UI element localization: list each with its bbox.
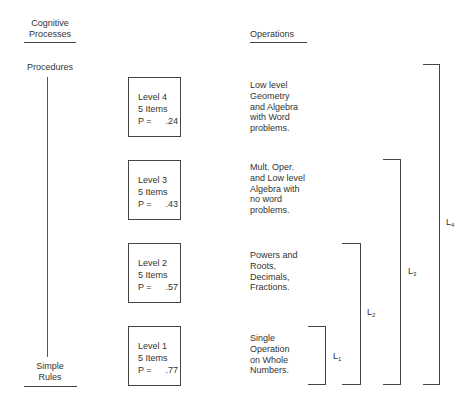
item-count: 5 Items: [138, 269, 178, 281]
operation-line: Low level: [250, 80, 298, 91]
header-underline: [24, 42, 76, 43]
operation-line: Geometry: [250, 91, 298, 102]
cognitive-axis-line: [47, 77, 48, 357]
operation-line: and Low level: [250, 173, 305, 184]
operation-line: Decimals,: [250, 272, 298, 283]
level-name: Level 3: [138, 174, 178, 186]
level-name: Level 2: [138, 257, 178, 269]
level-1-operations: Single Operation on Whole Numbers.: [250, 333, 290, 376]
operation-line: Roots,: [250, 261, 298, 272]
simple-rules-label: Simple Rules: [14, 361, 86, 383]
level-2-operations: Powers and Roots, Decimals, Fractions.: [250, 250, 298, 293]
operation-line: problems.: [250, 205, 305, 216]
operation-line: no word: [250, 194, 305, 205]
bracket-l1: [308, 326, 326, 385]
operation-line: Operation: [250, 344, 290, 355]
bracket-l4-label: L4: [446, 217, 454, 228]
operation-line: on Whole: [250, 355, 290, 366]
header-line-2: Processes: [14, 29, 86, 40]
p-label: P =: [138, 281, 152, 293]
operation-line: Fractions.: [250, 282, 298, 293]
level-name: Level 4: [138, 91, 178, 103]
bottom-label-line-1: Simple: [14, 361, 86, 372]
p-value: .24: [166, 115, 179, 127]
level-2-box: Level 2 5 Items P =.57: [128, 243, 181, 303]
level-1-box: Level 1 5 Items P =.77: [128, 326, 181, 386]
level-name: Level 1: [138, 340, 178, 352]
operation-line: Powers and: [250, 250, 298, 261]
level-4-box: Level 4 5 Items P =.24: [128, 77, 181, 137]
bottom-underline: [24, 386, 77, 387]
p-label: P =: [138, 198, 152, 210]
level-4-operations: Low level Geometry and Algebra with Word…: [250, 80, 298, 134]
bracket-l2: [342, 243, 361, 385]
bracket-l1-label: L1: [333, 351, 341, 362]
p-value: .57: [166, 281, 179, 293]
bracket-l2-label: L2: [367, 307, 375, 318]
level-3-box: Level 3 5 Items P =.43: [128, 160, 181, 220]
operation-line: Mult. Oper.: [250, 162, 305, 173]
p-value: .43: [166, 198, 179, 210]
bracket-l4: [423, 64, 440, 385]
operation-line: problems.: [250, 123, 298, 134]
p-label: P =: [138, 115, 152, 127]
p-value: .77: [166, 364, 179, 376]
level-3-operations: Mult. Oper. and Low level Algebra with n…: [250, 162, 305, 216]
p-label: P =: [138, 364, 152, 376]
operations-header: Operations: [250, 29, 294, 39]
operation-line: Algebra with: [250, 184, 305, 195]
operation-line: with Word: [250, 112, 298, 123]
bottom-label-line-2: Rules: [14, 372, 86, 383]
bracket-l3-label: L3: [408, 266, 416, 277]
item-count: 5 Items: [138, 186, 178, 198]
operation-line: and Algebra: [250, 102, 298, 113]
item-count: 5 Items: [138, 352, 178, 364]
cognitive-processes-header: Cognitive Processes: [14, 18, 86, 40]
operation-line: Single: [250, 333, 290, 344]
procedures-label: Procedures: [10, 62, 90, 73]
bracket-l3: [383, 159, 401, 385]
item-count: 5 Items: [138, 103, 178, 115]
operation-line: Numbers.: [250, 365, 290, 376]
header-line-1: Cognitive: [14, 18, 86, 29]
operations-underline: [250, 42, 307, 43]
